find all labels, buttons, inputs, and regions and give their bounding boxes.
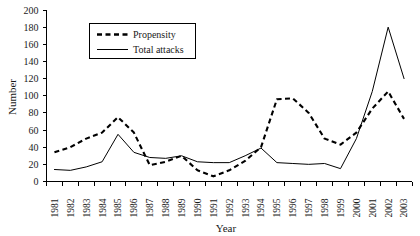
x-axis-title: Year [216, 222, 237, 234]
y-axis-tick-labels: 020406080100120140160180200 [24, 5, 39, 188]
x-tick-label: 1988 [161, 198, 171, 217]
x-tick-label: 2003 [399, 198, 409, 217]
y-tick-label: 180 [24, 22, 39, 33]
x-tick-label: 1984 [98, 198, 108, 217]
y-tick-label: 140 [24, 56, 39, 67]
x-tick-label: 1991 [209, 198, 219, 217]
chart-container: 020406080100120140160180200 198119821983… [0, 0, 420, 236]
x-tick-label: 1998 [320, 198, 330, 217]
line-chart: 020406080100120140160180200 198119821983… [0, 0, 420, 236]
x-tick-label: 1985 [113, 198, 123, 217]
legend-label-total-attacks: Total attacks [133, 44, 184, 55]
x-tick-label: 1990 [193, 198, 203, 217]
x-tick-label: 1992 [225, 198, 235, 217]
x-axis-ticks [47, 182, 413, 186]
y-tick-label: 0 [34, 176, 39, 187]
x-tick-label: 2001 [368, 198, 378, 217]
y-tick-label: 20 [29, 159, 39, 170]
x-tick-label: 1987 [145, 198, 155, 217]
y-axis-ticks [43, 10, 47, 182]
legend-label-propensity: Propensity [133, 29, 176, 40]
y-tick-label: 40 [29, 142, 39, 153]
x-tick-label: 1982 [66, 198, 76, 217]
x-tick-label: 2000 [352, 198, 362, 217]
x-tick-label: 1994 [256, 198, 266, 217]
y-tick-label: 60 [29, 125, 39, 136]
x-tick-label: 1983 [82, 198, 92, 217]
x-tick-label: 1989 [177, 198, 187, 217]
y-tick-label: 160 [24, 39, 39, 50]
y-tick-label: 100 [24, 90, 39, 101]
x-tick-label: 1997 [304, 198, 314, 217]
y-tick-label: 200 [24, 5, 39, 16]
series-line-propensity [54, 91, 404, 176]
x-tick-label: 1999 [336, 198, 346, 217]
x-tick-label: 1993 [241, 198, 251, 217]
x-tick-label: 2002 [384, 198, 394, 217]
x-tick-label: 1981 [50, 198, 60, 217]
x-axis-tick-labels: 1981198219831984198519861987198819891990… [50, 198, 410, 217]
y-axis-title: Number [6, 79, 18, 115]
y-tick-label: 120 [24, 73, 39, 84]
x-tick-label: 1986 [129, 198, 139, 217]
legend: Propensity Total attacks [90, 24, 196, 59]
x-tick-label: 1995 [272, 198, 282, 217]
x-tick-label: 1996 [288, 198, 298, 217]
y-tick-label: 80 [29, 107, 39, 118]
